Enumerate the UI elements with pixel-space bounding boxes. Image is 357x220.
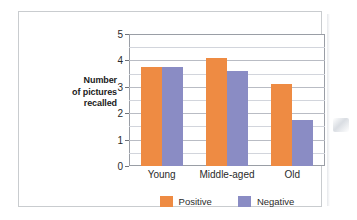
bars-layer bbox=[129, 34, 325, 166]
scan-edge-artifact bbox=[327, 14, 330, 206]
legend-item-positive: Positive bbox=[160, 196, 212, 207]
x-axis-labels: YoungMiddle-agedOld bbox=[129, 169, 325, 183]
figure-frame: Number of pictures recalled 012345 Young… bbox=[18, 11, 322, 207]
y-axis-title: Number of pictures recalled bbox=[43, 75, 117, 110]
bar-middle-aged-positive bbox=[206, 58, 227, 166]
legend-swatch-negative-icon bbox=[238, 196, 251, 207]
y-axis-tick-label: 1 bbox=[117, 134, 123, 145]
y-axis-tick-label: 2 bbox=[117, 108, 123, 119]
chart-legend: PositiveNegative bbox=[129, 196, 325, 207]
y-axis-tick-label: 4 bbox=[117, 55, 123, 66]
scan-smudge-artifact bbox=[333, 118, 349, 132]
bar-middle-aged-negative bbox=[227, 71, 248, 166]
y-axis-tick-label: 5 bbox=[117, 29, 123, 40]
legend-label-negative: Negative bbox=[257, 196, 295, 207]
x-axis-label-middle-aged: Middle-aged bbox=[199, 169, 254, 180]
x-axis-label-old: Old bbox=[285, 169, 301, 180]
bar-young-positive bbox=[141, 67, 162, 166]
y-axis-title-line-2: of pictures bbox=[43, 87, 117, 99]
y-axis-title-line-3: recalled bbox=[43, 98, 117, 110]
x-axis-label-young: Young bbox=[148, 169, 176, 180]
legend-swatch-positive-icon bbox=[160, 196, 173, 207]
bar-old-positive bbox=[271, 84, 292, 166]
bar-old-negative bbox=[292, 120, 313, 166]
legend-item-negative: Negative bbox=[238, 196, 295, 207]
bar-young-negative bbox=[162, 67, 183, 166]
plot-area-wrapper: 012345 bbox=[129, 34, 325, 166]
y-axis-title-line-1: Number bbox=[43, 75, 117, 87]
y-axis-tick bbox=[125, 166, 129, 167]
y-axis-tick-label: 3 bbox=[117, 81, 123, 92]
y-axis-tick-label: 0 bbox=[117, 161, 123, 172]
legend-label-positive: Positive bbox=[179, 196, 212, 207]
